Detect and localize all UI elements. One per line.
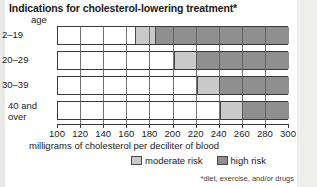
segment-high-30-39	[220, 77, 289, 94]
x-tick-label-160: 160	[118, 128, 134, 139]
segment-low-2-19	[58, 27, 135, 44]
legend-swatch-moderate-icon	[131, 156, 142, 165]
chart-title: Indications for cholesterol-lowering tre…	[9, 2, 237, 14]
gridline-120	[80, 26, 81, 124]
segment-moderate-2-19	[135, 27, 156, 44]
x-tick-label-120: 120	[72, 128, 88, 139]
segment-moderate-30-39	[197, 77, 220, 94]
gridline-260	[242, 26, 243, 124]
legend-item-high: high risk	[217, 155, 266, 166]
segment-moderate-20-29	[174, 52, 197, 69]
x-tick-label-220: 220	[188, 128, 204, 139]
page-edge-band-right	[297, 0, 317, 187]
legend-label-moderate: moderate risk	[145, 155, 203, 166]
gridline-220	[196, 26, 197, 124]
y-axis-tick-labels: 2–19 20–29 30–39 40 and over	[2, 26, 54, 124]
plot-area	[57, 26, 288, 124]
segment-low-30-39	[58, 77, 197, 94]
x-tick-label-100: 100	[49, 128, 65, 139]
x-tick-label-240: 240	[211, 128, 227, 139]
chart-footnote: *diet, exercise, and/or drugs	[201, 174, 294, 183]
x-tick-label-260: 260	[234, 128, 250, 139]
gridline-200	[173, 26, 174, 124]
gridline-280	[265, 26, 266, 124]
y-tick-label-3: 40 and over	[8, 101, 54, 122]
gridline-140	[103, 26, 104, 124]
x-tick-label-280: 280	[257, 128, 273, 139]
chart-figure: Indications for cholesterol-lowering tre…	[0, 0, 317, 187]
y-tick-label-0: 2–19	[2, 30, 54, 41]
segment-low-20-29	[58, 52, 174, 69]
legend-label-high: high risk	[231, 155, 266, 166]
y-tick-label-1: 20–29	[2, 55, 54, 66]
gridline-160	[126, 26, 127, 124]
x-tick-label-140: 140	[95, 128, 111, 139]
x-tick-label-200: 200	[165, 128, 181, 139]
segment-high-2-19	[156, 27, 289, 44]
legend-item-moderate: moderate risk	[131, 155, 203, 166]
y-axis-header: age	[31, 14, 47, 25]
gridline-240	[219, 26, 220, 124]
gridline-180	[149, 26, 150, 124]
segment-high-40-and-over	[243, 102, 289, 119]
x-tick-label-180: 180	[141, 128, 157, 139]
x-tick-label-300: 300	[280, 128, 296, 139]
x-axis-title: milligrams of cholesterol per deciliter …	[29, 140, 219, 151]
y-tick-label-2: 30–39	[2, 80, 54, 91]
chart-legend: moderate risk high risk	[131, 155, 266, 166]
segment-moderate-40-and-over	[220, 102, 243, 119]
legend-swatch-high-icon	[217, 156, 228, 165]
